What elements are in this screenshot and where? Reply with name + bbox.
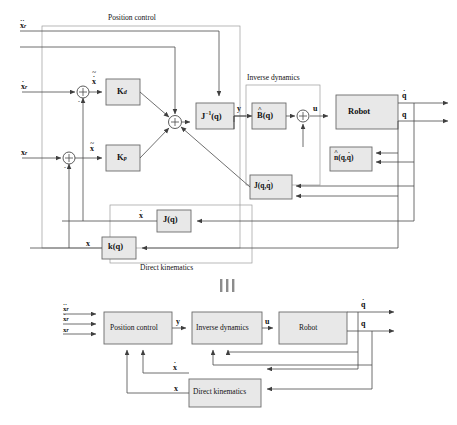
b-label-x-feedback: x (174, 385, 178, 393)
b-label-xdot-feedback: ·x (173, 364, 177, 372)
bottom-robot-block-label: Robot (299, 324, 317, 332)
figure-root: Position control Inverse dynamics Direct… (0, 0, 457, 425)
gain-block-kd-label: Kd (117, 87, 127, 96)
position-control-block-label: Position control (110, 324, 158, 332)
sum-sign-minus-velocity: - (78, 98, 80, 104)
label-qdot-output: ·q (402, 92, 406, 100)
input-label-vel-ref: ·xr (21, 83, 27, 91)
label-inverse-dynamics-group: Inverse dynamics (247, 74, 300, 82)
inverse-jacobian-block-label: J−1(q) (201, 111, 222, 120)
label-x-feedback: x (86, 240, 90, 248)
wire-kd-to-sum (140, 92, 169, 117)
label-position-control-group: Position control (108, 14, 156, 22)
label-xdot-feedback: ·x (139, 212, 143, 220)
b-label-q-output: q (361, 320, 365, 328)
nonlinear-terms-block-label: ^n(q,·q) (334, 154, 353, 162)
b-label-u-signal: u (265, 318, 269, 326)
jacobian-derivative-block-label: J(q,·q) (254, 182, 273, 190)
label-direct-kinematics-group: Direct kinematics (140, 264, 193, 272)
inverse-dynamics-group-box (246, 85, 320, 185)
direct-kinematics-block-label: Direct kinematics (193, 388, 246, 396)
b-input-label-pos-ref: xr (63, 327, 69, 334)
sum-sign-minus-position: - (64, 164, 66, 170)
inverse-dynamics-block-label: Inverse dynamics (196, 324, 249, 332)
input-label-pos-ref: xr (21, 149, 27, 157)
b-label-qdot-output: ·q (361, 301, 365, 309)
label-position-error: ~x (90, 145, 94, 153)
input-label-accel-ref: ··xr (20, 22, 26, 30)
wire-jdot-to-sum (181, 127, 250, 187)
equivalence-symbol (220, 279, 234, 292)
label-velocity-error: ·~x (92, 78, 96, 86)
b-label-y-signal: y (176, 318, 180, 326)
label-u-signal: u (313, 105, 317, 113)
b-input-label-vel-ref: ·xr (63, 316, 69, 323)
label-y-signal: y (237, 105, 241, 113)
gain-block-kp-label: Kp (117, 153, 127, 162)
jacobian-block-label: J(q) (163, 215, 178, 224)
inertia-estimate-block-label: ^B(q) (257, 111, 273, 120)
wire-kp-to-sum (140, 128, 169, 158)
label-q-output: q (402, 111, 406, 119)
forward-kinematics-block-label: k(q) (108, 242, 123, 251)
robot-block-label: Robot (348, 107, 370, 116)
diagram-canvas (0, 0, 457, 425)
